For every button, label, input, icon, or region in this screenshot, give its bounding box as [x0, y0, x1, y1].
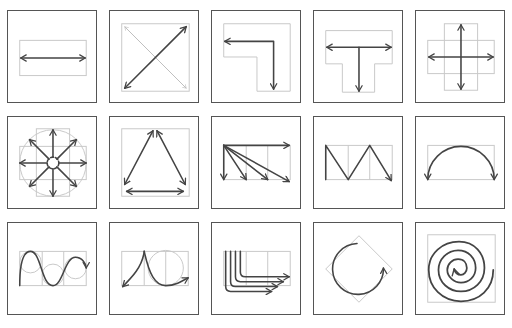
- triangle-cycle-arrow-icon: [110, 117, 198, 208]
- l-shape-bent-arrow-icon: [212, 11, 300, 102]
- cross-four-way-arrow-icon: [416, 11, 504, 102]
- zigzag-arrow-icon: [314, 117, 402, 208]
- tile-circular-arrow[interactable]: [313, 222, 403, 315]
- tile-wave-curve-arrow[interactable]: [7, 222, 97, 315]
- tile-radial-eight-way-arrow[interactable]: [7, 116, 97, 209]
- wave-curve-arrow-icon: [8, 223, 96, 314]
- tile-stacked-bent-arrows[interactable]: [211, 222, 301, 315]
- tile-t-shape-arrow[interactable]: [313, 10, 403, 103]
- diagonal-double-arrow-icon: [110, 11, 198, 102]
- tile-diagonal-double-arrow[interactable]: [109, 10, 199, 103]
- circular-arrow-icon: [314, 223, 402, 314]
- tile-spiral-arrow[interactable]: [415, 222, 505, 315]
- horizontal-double-arrow-icon: [8, 11, 96, 102]
- tile-cross-four-way-arrow[interactable]: [415, 10, 505, 103]
- tile-fan-out-arrows[interactable]: [211, 116, 301, 209]
- tile-l-shape-bent-arrow[interactable]: [211, 10, 301, 103]
- peak-curve-arrow-icon: [110, 223, 198, 314]
- t-shape-arrow-icon: [314, 11, 402, 102]
- tile-zigzag-arrow[interactable]: [313, 116, 403, 209]
- stacked-bent-arrows-icon: [212, 223, 300, 314]
- fan-out-arrows-icon: [212, 117, 300, 208]
- tile-peak-curve-arrow[interactable]: [109, 222, 199, 315]
- tile-horizontal-double-arrow[interactable]: [7, 10, 97, 103]
- semicircle-arc-arrow-icon: [416, 117, 504, 208]
- tile-triangle-cycle-arrow[interactable]: [109, 116, 199, 209]
- tile-semicircle-arc-arrow[interactable]: [415, 116, 505, 209]
- spiral-arrow-icon: [416, 223, 504, 314]
- radial-eight-way-arrow-icon: [8, 117, 96, 208]
